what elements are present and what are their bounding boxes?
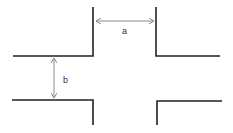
wall-top-right	[156, 7, 220, 56]
wall-bottom-left	[12, 100, 93, 125]
wall-top-left	[13, 7, 93, 56]
intersection-diagram: a b	[0, 0, 233, 133]
dimension-label-a: a	[122, 26, 127, 36]
wall-bottom-right	[157, 101, 222, 125]
dimension-label-b: b	[63, 75, 68, 85]
